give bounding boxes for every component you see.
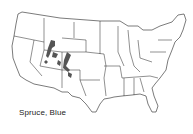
map-caption: Spruce, Blue <box>19 108 66 117</box>
us-outline <box>12 12 186 112</box>
